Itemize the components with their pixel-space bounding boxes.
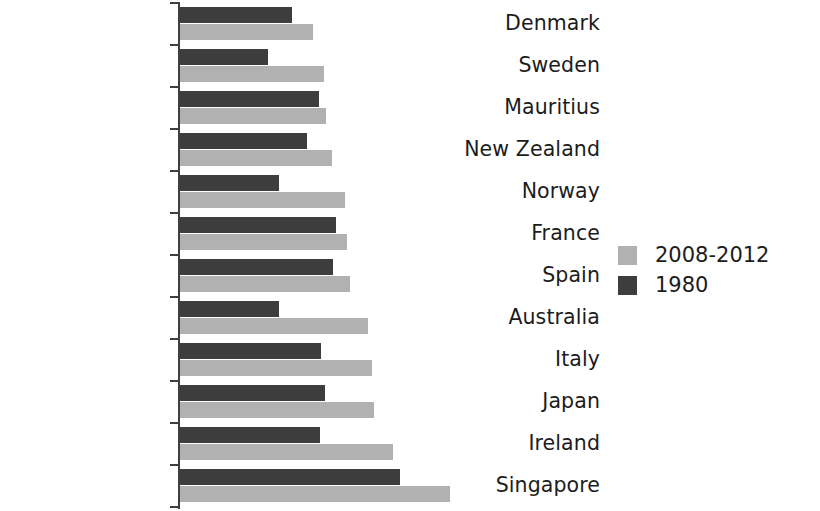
legend-item-2008-2012: 2008-2012 — [618, 240, 818, 270]
bar-1980 — [180, 7, 292, 23]
bar-row: France — [0, 212, 600, 254]
bar-2008-2012 — [180, 24, 313, 40]
bar-1980 — [180, 385, 325, 401]
bar-row: Ireland — [0, 422, 600, 464]
bar-2008-2012 — [180, 108, 326, 124]
bar-2008-2012 — [180, 360, 372, 376]
legend-item-1980: 1980 — [618, 270, 818, 300]
bar-1980 — [180, 91, 319, 107]
bar-row: Sweden — [0, 44, 600, 86]
bar-1980 — [180, 343, 321, 359]
bar-row: Singapore — [0, 464, 600, 506]
bar-1980 — [180, 175, 279, 191]
bar-1980 — [180, 259, 333, 275]
bar-row: Spain — [0, 254, 600, 296]
bar-group — [180, 44, 600, 86]
bar-group — [180, 254, 600, 296]
legend-swatch-light-icon — [618, 246, 637, 265]
bar-row: Denmark — [0, 2, 600, 44]
bar-1980 — [180, 469, 400, 485]
chart-legend: 2008-2012 1980 — [618, 240, 818, 300]
bar-group — [180, 296, 600, 338]
bar-2008-2012 — [180, 66, 324, 82]
axis-tick — [170, 506, 179, 508]
bar-group — [180, 380, 600, 422]
bar-2008-2012 — [180, 486, 450, 502]
bar-row: Japan — [0, 380, 600, 422]
bar-group — [180, 170, 600, 212]
bar-1980 — [180, 49, 268, 65]
bar-row: Norway — [0, 170, 600, 212]
bar-chart: DenmarkSwedenMauritiusNew ZealandNorwayF… — [0, 0, 820, 511]
bar-2008-2012 — [180, 402, 374, 418]
bar-group — [180, 464, 600, 506]
bar-2008-2012 — [180, 444, 393, 460]
plot-area: DenmarkSwedenMauritiusNew ZealandNorwayF… — [0, 0, 600, 511]
bar-2008-2012 — [180, 318, 368, 334]
bar-2008-2012 — [180, 276, 350, 292]
bar-group — [180, 2, 600, 44]
bar-group — [180, 128, 600, 170]
bar-group — [180, 212, 600, 254]
bar-1980 — [180, 301, 279, 317]
bar-1980 — [180, 427, 320, 443]
bar-group — [180, 422, 600, 464]
bar-2008-2012 — [180, 192, 345, 208]
bar-1980 — [180, 133, 307, 149]
bar-1980 — [180, 217, 336, 233]
bar-row: New Zealand — [0, 128, 600, 170]
bar-row: Australia — [0, 296, 600, 338]
legend-label: 1980 — [655, 275, 708, 296]
bar-group — [180, 86, 600, 128]
bar-row: Italy — [0, 338, 600, 380]
bar-2008-2012 — [180, 234, 347, 250]
bar-group — [180, 338, 600, 380]
bar-row: Mauritius — [0, 86, 600, 128]
legend-swatch-dark-icon — [618, 276, 637, 295]
bar-2008-2012 — [180, 150, 332, 166]
legend-label: 2008-2012 — [655, 245, 769, 266]
